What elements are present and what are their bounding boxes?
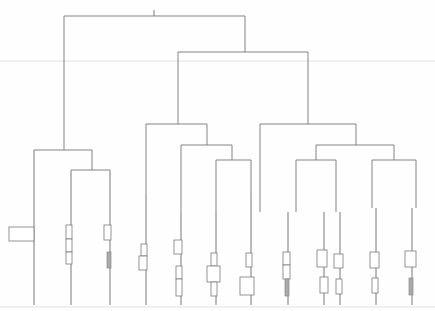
dendrogram-glyphs-group xyxy=(9,225,416,296)
dendrogram-svg: Hierarchical clustering dendrogram xyxy=(0,0,435,311)
leaf-glyph-L4-1 xyxy=(141,244,147,256)
leaf-glyph-L12-1 xyxy=(405,251,416,267)
leaf-glyph-L6-1 xyxy=(211,253,217,266)
leaf-glyph-L7-1 xyxy=(246,253,252,267)
leaf-glyph-L11-2 xyxy=(372,278,378,293)
leaf-glyph-L2-2 xyxy=(66,239,72,252)
leaf-glyph-L5-2 xyxy=(176,266,182,279)
dendrogram-figure: Hierarchical clustering dendrogram xyxy=(0,0,435,311)
leaf-glyph-L6-2 xyxy=(207,266,220,282)
leaf-glyph-L2-1 xyxy=(66,225,72,239)
leaf-glyph-L3-2 xyxy=(107,252,111,268)
leaf-glyph-L9-1 xyxy=(317,250,327,267)
leaf-glyph-L7-2 xyxy=(240,277,254,295)
leaf-glyph-L9-2 xyxy=(320,277,328,293)
leaf-glyph-L1-1 xyxy=(9,227,34,241)
dendrogram-stems-group xyxy=(34,152,412,305)
leaf-glyph-L12-2 xyxy=(409,278,413,295)
leaf-glyph-L5-1 xyxy=(174,240,182,254)
leaf-glyph-L8-2 xyxy=(283,265,290,279)
leaf-glyph-L2-3 xyxy=(66,252,72,264)
leaf-glyph-L8-3 xyxy=(285,279,289,296)
leaf-glyph-L3-1 xyxy=(104,225,111,240)
leaf-glyph-L10-1 xyxy=(334,254,343,268)
dendrogram-links-group xyxy=(34,16,416,212)
leaf-glyph-L6-3 xyxy=(211,282,217,296)
leaf-glyph-L10-2 xyxy=(336,279,342,294)
leaf-glyph-L11-1 xyxy=(370,252,379,268)
leaf-glyph-L4-2 xyxy=(139,256,147,270)
leaf-glyph-L5-3 xyxy=(176,279,182,296)
leaf-glyph-L8-1 xyxy=(283,252,290,265)
